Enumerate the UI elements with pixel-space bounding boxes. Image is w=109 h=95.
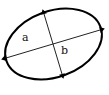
- ellipse-diagram: a b: [0, 0, 109, 95]
- semi-minor-axis-arrow: [44, 14, 62, 74]
- semi-major-axis-label: a: [22, 32, 29, 43]
- semi-minor-axis-label: b: [61, 45, 68, 56]
- ellipse-diagram-canvas: [0, 0, 109, 95]
- ellipse-outline: [0, 0, 109, 92]
